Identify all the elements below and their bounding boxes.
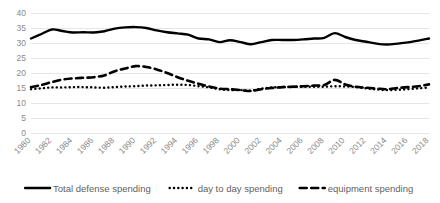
chart-legend: Total defense spendingday to day spendin… [25,183,413,194]
x-axis-tick-label: 1986 [75,135,96,156]
x-axis-tick-label: 2002 [242,135,263,156]
x-axis-tick-label: 1982 [33,135,54,156]
y-axis-tick-label: 40 [17,8,27,18]
gridlines-group [31,13,429,133]
legend-item-label: day to day spending [198,183,283,194]
legend-item-label: Total defense spending [53,183,151,194]
x-axis-tick-label: 2006 [284,135,305,156]
x-axis-tick-label: 2008 [305,135,326,156]
x-axis-tick-label: 1998 [200,135,221,156]
x-axis-tick-label: 1988 [96,135,117,156]
y-axis-tick-label: 15 [17,83,27,93]
y-axis-tick-label: 35 [17,23,27,33]
x-axis-tick-label: 2004 [263,135,284,156]
y-axis-tick-label: 30 [17,38,27,48]
y-axis-tick-label: 20 [17,68,27,78]
y-axis-tick-label: 25 [17,53,27,63]
line-chart: 0510152025303540 19801982198419861988199… [0,0,440,203]
x-axis-tick-label: 2010 [326,135,347,156]
y-axis-tick-labels: 0510152025303540 [17,8,27,138]
x-axis-tick-label: 1996 [180,135,201,156]
x-axis-tick-label: 1980 [12,135,33,156]
x-axis-tick-label: 1992 [138,135,159,156]
y-axis-tick-label: 10 [17,98,27,108]
x-axis-tick-label: 2012 [347,135,368,156]
x-axis-tick-label: 1990 [117,135,138,156]
x-axis-tick-label: 2016 [389,135,410,156]
x-axis-tick-label: 2000 [221,135,242,156]
x-axis-tick-labels: 1980198219841986198819901992199419961998… [12,135,431,156]
data-series-group [31,27,429,91]
x-axis-tick-label: 1994 [159,135,180,156]
series-line-solid [31,27,429,44]
x-axis-tick-label: 2014 [368,135,389,156]
x-axis-tick-label: 1984 [54,135,75,156]
y-axis-tick-label: 5 [21,113,26,123]
chart-canvas: 0510152025303540 19801982198419861988199… [0,0,440,203]
legend-item-label: equipment spending [328,183,414,194]
x-axis-tick-label: 2018 [410,135,431,156]
